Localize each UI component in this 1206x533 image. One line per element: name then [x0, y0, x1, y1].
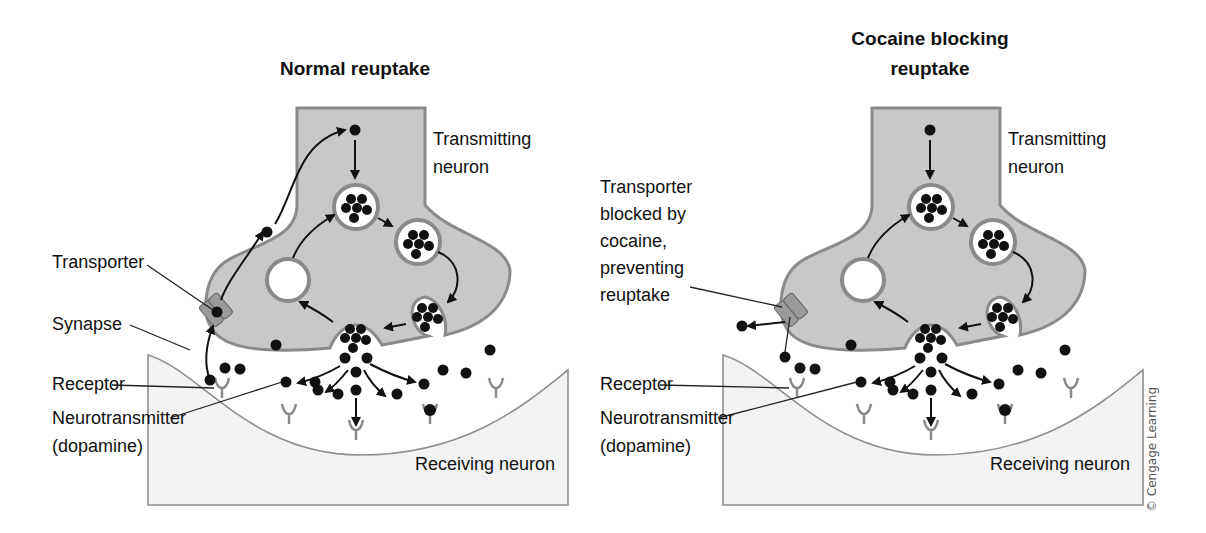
neurotransmitter-molecule [428, 303, 438, 313]
receptor-label: Receptor [52, 374, 125, 394]
panel-normal-reuptake: Normal reuptakeTransmittingneuronReceivi… [52, 58, 568, 505]
neurotransmitter-molecule [810, 364, 821, 375]
neurotransmitter-molecule [967, 389, 978, 400]
neurotransmitter-molecule [978, 239, 988, 249]
panel-title: Normal reuptake [280, 58, 430, 79]
neurotransmitter-molecule [433, 314, 443, 324]
receptor-icon [857, 404, 871, 424]
neurotransmitter-molecule [986, 249, 996, 259]
neurotransmitter-molecule [983, 230, 993, 240]
flow-arrow [206, 326, 213, 380]
receiving-neuron-label: Receiving neuron [415, 454, 555, 474]
receptor-icon [790, 378, 804, 398]
neurotransmitter-molecule [931, 324, 941, 334]
neurotransmitter-molecule [995, 322, 1005, 332]
neurotransmitter-molecule [356, 324, 366, 334]
neurotransmitter-molecule [271, 340, 282, 351]
neurotransmitter-molecule [485, 345, 496, 356]
neurotransmitter-molecule [424, 404, 436, 416]
neurotransmitter-molecule [346, 194, 356, 204]
neurotransmitter-molecule [424, 241, 434, 251]
neurotransmitter-molecule [411, 249, 421, 259]
neurotransmitter-molecule [408, 230, 418, 240]
neurotransmitter-molecule [403, 239, 413, 249]
neurotransmitter-molecule [419, 379, 430, 390]
neurotransmitter-molecule [340, 333, 350, 343]
neurotransmitter-molecule [362, 353, 373, 364]
neurotransmitter-molecule [419, 230, 429, 240]
transmitting-neuron-label: Transmitting [433, 129, 531, 149]
synapse-label: Synapse [52, 314, 122, 334]
neurotransmitter-molecule [994, 379, 1005, 390]
neurotransmitter-molecule [351, 367, 362, 378]
receptor-icon [282, 404, 296, 424]
neurotransmitter-molecule [994, 230, 1004, 240]
flow-arrow [748, 322, 785, 326]
receptor-icon [489, 378, 503, 398]
neurotransmitter-molecule [412, 312, 422, 322]
transmitting-neuron-label: neuron [1008, 157, 1064, 177]
neurotransmitter-label: Neurotransmitter [600, 408, 734, 428]
neurotransmitter-molecule [936, 335, 946, 345]
neurotransmitter-molecule [923, 343, 933, 353]
neurotransmitter-molecule [1060, 345, 1071, 356]
neurotransmitter-molecule [932, 194, 942, 204]
copyright-credit: © Cengage Learning [1145, 387, 1159, 512]
neurotransmitter-molecule [998, 312, 1008, 322]
panel-title: reuptake [890, 58, 969, 79]
neurotransmitter-molecule [846, 340, 857, 351]
flow-arrow [370, 364, 415, 382]
neurotransmitter-molecule [220, 363, 231, 374]
neurotransmitter-molecule [357, 194, 367, 204]
neurotransmitter-molecule [1036, 368, 1047, 379]
transporter-label: Transporter [52, 252, 144, 272]
neurotransmitter-molecule [281, 377, 292, 388]
neurotransmitter-molecule [438, 365, 449, 376]
neurotransmitter-molecule [423, 312, 433, 322]
neurotransmitter-molecule [420, 322, 430, 332]
neurotransmitter-molecule [351, 333, 361, 343]
neurotransmitter-molecule [392, 389, 403, 400]
neurotransmitter-molecule [925, 125, 936, 136]
neurotransmitter-label: (dopamine) [52, 436, 143, 456]
neurotransmitter-molecule [921, 194, 931, 204]
neurotransmitter-molecule [235, 364, 246, 375]
transporter-blocked-label: blocked by [600, 204, 686, 224]
neurotransmitter-molecule [856, 377, 867, 388]
neurotransmitter-molecule [927, 203, 937, 213]
transporter-leader-line [147, 265, 213, 310]
neurotransmitter-molecule [780, 352, 791, 363]
neurotransmitter-molecule [915, 353, 926, 364]
neurotransmitter-molecule [348, 343, 358, 353]
receiving-neuron-label: Receiving neuron [990, 454, 1130, 474]
neurotransmitter-label: Neurotransmitter [52, 408, 186, 428]
neurotransmitter-molecule [212, 307, 223, 318]
neurotransmitter-molecule [992, 303, 1002, 313]
transmitting-neuron-label: Transmitting [1008, 129, 1106, 149]
neurotransmitter-molecule [926, 385, 937, 396]
neurotransmitter-molecule [737, 321, 748, 332]
neurotransmitter-molecule [999, 404, 1011, 416]
neurotransmitter-molecule [916, 203, 926, 213]
transporter-blocked-label: cocaine, [600, 231, 667, 251]
transporter-blocked-label: Transporter [600, 177, 692, 197]
neurotransmitter-molecule [915, 333, 925, 343]
neurotransmitter-molecule [333, 389, 344, 400]
neurotransmitter-molecule [262, 227, 273, 238]
neurotransmitter-molecule [414, 239, 424, 249]
neurotransmitter-label: (dopamine) [600, 436, 691, 456]
neurotransmitter-molecule [361, 335, 371, 345]
neurotransmitter-molecule [349, 213, 359, 223]
flow-arrow [364, 370, 385, 396]
transporter-blocked-label: preventing [600, 258, 684, 278]
neurotransmitter-molecule [341, 203, 351, 213]
receptor-icon [215, 378, 229, 398]
neurotransmitter-molecule [417, 303, 427, 313]
transmitting-neuron-label: neuron [433, 157, 489, 177]
panel-cocaine-blocking: Cocaine blockingreuptakeTransmittingneur… [600, 28, 1143, 505]
empty-vesicle [267, 259, 309, 301]
neurotransmitter-molecule [926, 333, 936, 343]
neurotransmitter-molecule [345, 324, 355, 334]
neurotransmitter-molecule [920, 324, 930, 334]
neurotransmitter-molecule [1008, 314, 1018, 324]
